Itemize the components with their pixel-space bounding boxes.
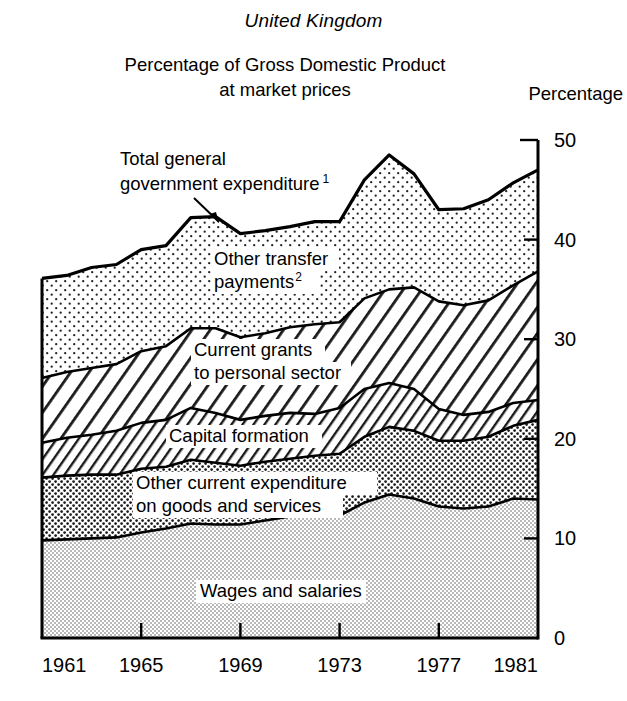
annotation-wages-and-salaries: Wages and salaries	[196, 580, 366, 603]
annotation-line-2: on goods and services	[136, 495, 321, 516]
x-tick-label-1961: 1961	[42, 654, 87, 676]
y-tick-label-30: 30	[554, 328, 576, 350]
annotation-other-current-expenditure: Other current expenditure on goods and s…	[133, 472, 377, 518]
svg-text:payments2: payments2	[214, 270, 302, 292]
x-tick-label-1969: 1969	[218, 654, 263, 676]
annotation-line-1: Total general	[120, 148, 226, 169]
x-tick-label-1965: 1965	[119, 654, 164, 676]
annotation-superscript: 2	[295, 270, 302, 284]
annotation-line-1: Wages and salaries	[200, 580, 362, 601]
annotation-line-2: government expenditure	[120, 173, 320, 194]
y-tick-label-50: 50	[554, 129, 576, 151]
annotation-line-1: Capital formation	[169, 425, 309, 446]
annotation-line-1: Other current expenditure	[136, 472, 347, 493]
x-tick-label-1981: 1981	[494, 654, 539, 676]
chart-figure: United Kingdom Percentage of Gross Domes…	[0, 0, 627, 701]
stacked-area-plot: 01020304050 196119651969197319771981 Tot…	[0, 0, 627, 701]
annotation-total-general-government-expenditure: Total general government expenditure1	[120, 148, 330, 223]
annotation-line-2: payments	[214, 271, 294, 292]
y-tick-label-10: 10	[554, 527, 576, 549]
annotation-line-1: Other transfer	[214, 248, 328, 269]
x-tick-label-1973: 1973	[317, 654, 362, 676]
x-axis-tick-labels: 196119651969197319771981	[42, 654, 538, 676]
x-tick-label-1977: 1977	[417, 654, 462, 676]
annotation-line-2: to personal sector	[194, 362, 341, 383]
y-tick-label-40: 40	[554, 229, 576, 251]
annotation-line-1: Current grants	[194, 339, 312, 360]
y-tick-label-20: 20	[554, 428, 576, 450]
svg-text:government expenditure1: government expenditure1	[120, 172, 330, 194]
y-axis-tick-labels: 01020304050	[554, 129, 576, 649]
y-tick-label-0: 0	[554, 627, 565, 649]
annotation-superscript: 1	[323, 172, 330, 186]
annotation-capital-formation: Capital formation	[166, 425, 322, 448]
